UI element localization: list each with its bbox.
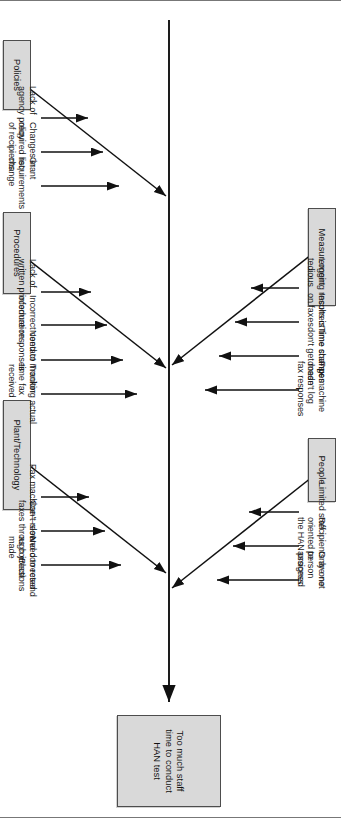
cause-label-procedures-3: Tracking actual time fax received xyxy=(6,364,38,424)
effect-box: Too much staff time to conduct HAN test xyxy=(117,715,221,807)
cause-label-policies-2: Grant requirements change xyxy=(6,157,38,209)
cause-label-measurement-3: Fax machine doesn't log fax responses xyxy=(295,361,327,416)
fishbone-diagram: Too much staff time to conduct HAN test … xyxy=(0,0,341,818)
diagram-rotation-wrapper: Too much staff time to conduct HAN test … xyxy=(0,0,341,818)
cause-label-plant-technology-2: Need to resend as corrections made xyxy=(6,536,38,597)
cause-label-people-2: Only one person assigned xyxy=(295,551,327,587)
fishbone-skeleton xyxy=(0,0,341,818)
